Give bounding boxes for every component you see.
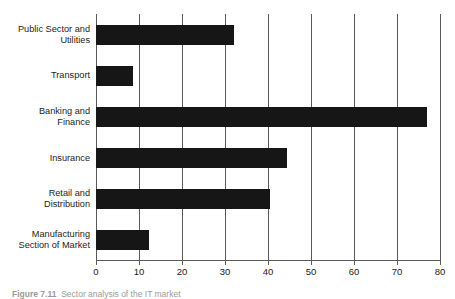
bar-row (96, 179, 440, 220)
bar-row (96, 220, 440, 261)
x-tick-label-50: 50 (296, 266, 326, 277)
category-label-line: Insurance (0, 153, 90, 164)
x-tick-label-20: 20 (167, 266, 197, 277)
category-label-insurance: Insurance (0, 153, 90, 164)
bar-row (96, 96, 440, 137)
bar-row (96, 138, 440, 179)
x-tick-label-80: 80 (425, 266, 455, 277)
category-label-line: Transport (0, 70, 90, 81)
category-label-line: Utilities (0, 35, 90, 46)
category-label-line: Retail and (0, 188, 90, 199)
category-label-line: Banking and (0, 106, 90, 117)
bar[interactable] (96, 148, 287, 168)
x-tick-label-30: 30 (210, 266, 240, 277)
x-tick-label-70: 70 (382, 266, 412, 277)
tick-mark-0 (96, 260, 97, 265)
tick-mark-10 (139, 260, 140, 265)
category-label-manufacturing-section-of-market: Manufacturing Section of Market (0, 229, 90, 251)
category-label-line: Public Sector and (0, 24, 90, 35)
tick-mark-30 (225, 260, 226, 265)
bar[interactable] (96, 107, 427, 127)
x-tick-label-40: 40 (253, 266, 283, 277)
tick-mark-40 (268, 260, 269, 265)
category-label-line: Finance (0, 117, 90, 128)
bar-row (96, 14, 440, 55)
tick-mark-50 (311, 260, 312, 265)
category-label-line: Section of Market (0, 240, 90, 251)
category-label-retail-and-distribution: Retail and Distribution (0, 188, 90, 210)
category-label-line: Distribution (0, 199, 90, 210)
bar[interactable] (96, 66, 133, 86)
x-tick-label-0: 0 (81, 266, 111, 277)
category-label-transport: Transport (0, 70, 90, 81)
tick-mark-60 (354, 260, 355, 265)
x-tick-label-60: 60 (339, 266, 369, 277)
figure-caption: Figure 7.11 Sector analysis of the IT ma… (12, 289, 181, 299)
category-label-line: Manufacturing (0, 229, 90, 240)
category-label-banking-and-finance: Banking and Finance (0, 106, 90, 128)
caption-text: Sector analysis of the IT market (56, 289, 180, 299)
bar[interactable] (96, 25, 234, 45)
x-tick-label-10: 10 (124, 266, 154, 277)
bar[interactable] (96, 230, 149, 250)
caption-label: Figure 7.11 (12, 289, 56, 299)
tick-mark-70 (397, 260, 398, 265)
tick-mark-20 (182, 260, 183, 265)
bar-row (96, 55, 440, 96)
gridline-80 (440, 14, 441, 261)
tick-mark-80 (440, 260, 441, 265)
plot-area (96, 14, 440, 261)
bar[interactable] (96, 189, 270, 209)
category-label-public-sector-and-utilities: Public Sector and Utilities (0, 24, 90, 46)
figure-bar-chart: Public Sector and Utilities Transport Ba… (0, 0, 455, 299)
